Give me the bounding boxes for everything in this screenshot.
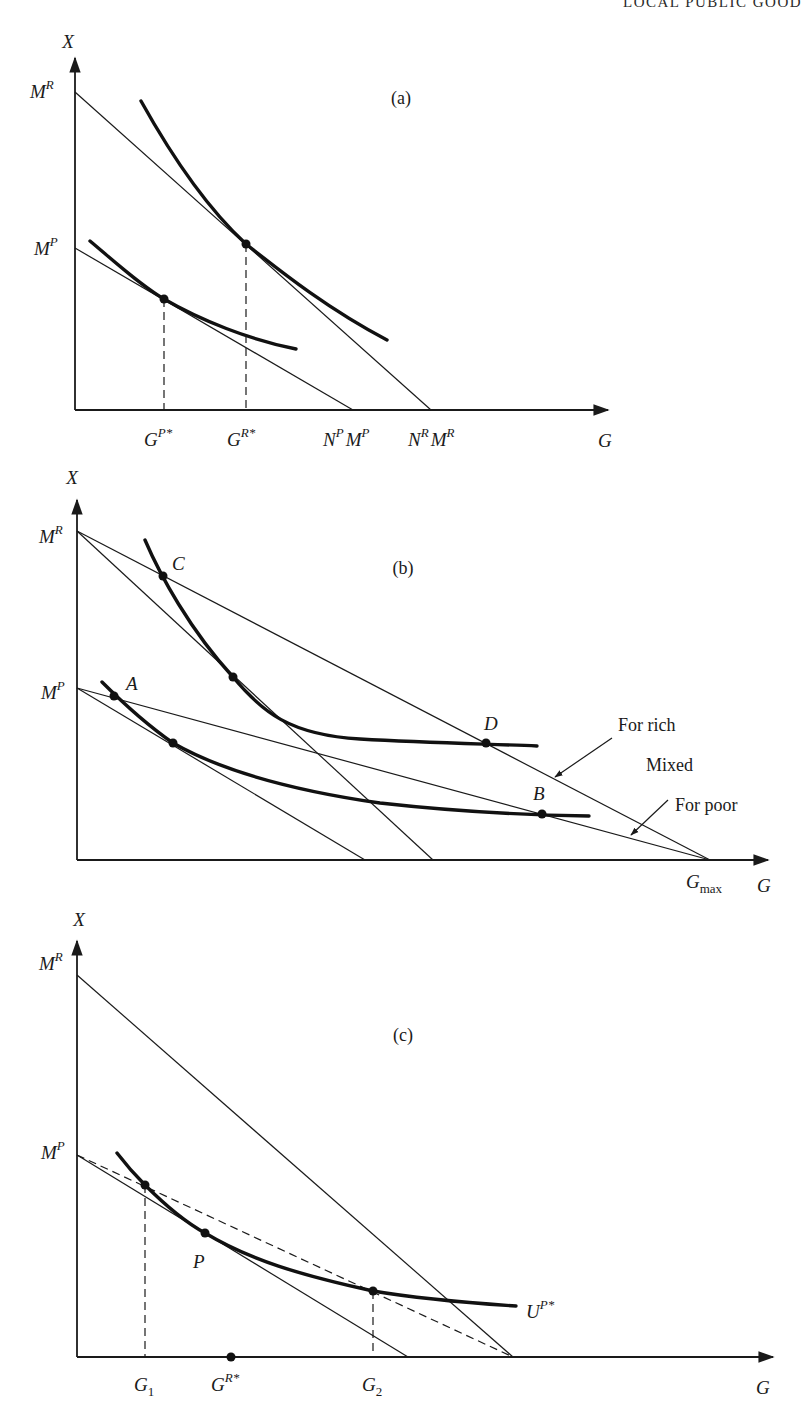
point-G2-intersection: [369, 1287, 378, 1296]
point-G1-intersection: [141, 1181, 150, 1190]
x-axis-label: G: [598, 430, 612, 451]
point-GRstar: [227, 1353, 236, 1362]
panel-a: X G (a) MR MP GP* GR* NPMP NRMR: [29, 31, 612, 451]
tick-G1: G1: [134, 1374, 154, 1399]
point-A: [110, 692, 119, 701]
label-MP: MP: [40, 1138, 65, 1163]
UPstar-indifference-curve: [117, 1153, 516, 1306]
y-axis-label: X: [72, 909, 86, 930]
point-C: [159, 572, 168, 581]
poor-mixed-budget-line: [77, 688, 710, 860]
panel-tag: (c): [393, 1025, 413, 1046]
rich-indifference-curve: [141, 101, 387, 340]
label-B: B: [533, 783, 545, 804]
label-D: D: [483, 713, 498, 734]
for-poor-arrow: [631, 800, 668, 835]
poor-optimum-point: [160, 295, 169, 304]
tick-NPMP: NPMP: [322, 425, 369, 450]
tick-GRstar: GR*: [211, 1370, 240, 1395]
rich-optimum-point: [242, 240, 251, 249]
label-MR: MR: [38, 522, 63, 547]
poor-budget-line: [75, 248, 353, 410]
panel-c: X G (c) MR MP P UP* G1 GR* G2: [38, 909, 773, 1399]
y-axis-label: X: [65, 467, 79, 488]
rich-pure-budget-line: [77, 531, 433, 860]
panel-b: X G (b) MR MP C A D B For rich Mixed For…: [38, 467, 771, 896]
label-MP: MP: [33, 234, 58, 259]
poor-budget-line: [77, 1155, 408, 1357]
tick-G2: G2: [362, 1374, 382, 1399]
label-MR: MR: [29, 77, 54, 102]
rich-indifference-curve: [145, 540, 537, 746]
y-axis-label: X: [61, 31, 75, 52]
for-rich-arrow: [555, 738, 612, 777]
label-MR: MR: [38, 949, 63, 974]
rich-mixed-budget-line: [77, 531, 710, 860]
x-axis-label: G: [757, 875, 771, 896]
label-C: C: [172, 553, 185, 574]
tick-NRMR: NRMR: [407, 425, 454, 450]
annotation-for-poor: For poor: [675, 795, 738, 815]
point-B: [538, 810, 547, 819]
point-D: [482, 739, 491, 748]
tick-Gmax: Gmax: [686, 871, 723, 896]
rich-pure-optimum-point: [229, 673, 238, 682]
annotation-for-rich: For rich: [618, 715, 676, 735]
tick-GRstar: GR*: [227, 425, 256, 450]
x-axis-label: G: [756, 1377, 770, 1398]
annotation-mixed: Mixed: [646, 755, 693, 775]
panel-tag: (a): [391, 88, 411, 109]
label-P: P: [192, 1251, 205, 1272]
label-MP: MP: [40, 678, 65, 703]
label-UPstar: UP*: [526, 1297, 555, 1322]
poor-pure-optimum-point: [169, 739, 178, 748]
poor-indifference-curve: [102, 682, 589, 816]
panel-tag: (b): [393, 558, 414, 579]
point-P: [201, 1229, 210, 1238]
label-A: A: [124, 673, 138, 694]
tick-GPstar: GP*: [144, 425, 173, 450]
poor-pure-budget-line: [77, 688, 365, 860]
